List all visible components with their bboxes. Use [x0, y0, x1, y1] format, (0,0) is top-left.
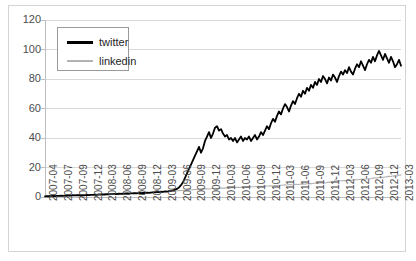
- legend-swatch-linkedin-icon: [67, 60, 93, 62]
- y-axis-tick-label: 20: [9, 162, 41, 173]
- y-axis-tick-label: 80: [9, 73, 41, 84]
- x-axis-tick-label: 2011-03: [286, 165, 296, 201]
- legend-label-twitter: twitter: [99, 37, 128, 48]
- x-axis-tick-label: 2013-03: [405, 164, 415, 201]
- x-axis-tick-label: 2010-06: [242, 164, 252, 201]
- x-axis-tick-label: 2008-12: [153, 164, 163, 201]
- x-axis-tick-label: 2007-09: [79, 164, 89, 201]
- x-axis-tick-label: 2010-03: [227, 164, 237, 201]
- x-axis-tick-label: 2008-03: [108, 164, 118, 201]
- x-axis-tick-label: 2012-06: [361, 164, 371, 201]
- x-axis-tick-label: 2012-09: [375, 164, 385, 201]
- x-axis-tick-label: 2011-06: [301, 165, 311, 201]
- x-axis-tick-label: 2012-03: [346, 164, 356, 201]
- y-axis-tick-label: 40: [9, 132, 41, 143]
- x-axis-tick-label: 2010-09: [257, 164, 267, 201]
- x-axis-tick-label: 2012-12: [390, 164, 400, 201]
- chart-legend: twitter linkedin: [57, 27, 129, 71]
- x-axis-tick-label: 2009-09: [197, 164, 207, 201]
- x-axis-tick-label: 2009-03: [168, 164, 178, 201]
- legend-swatch-twitter-icon: [67, 41, 93, 44]
- y-axis-tick-label: 0: [9, 191, 41, 202]
- y-axis-tick-label: 120: [9, 14, 41, 25]
- x-axis-tick-label: 2009-06: [183, 164, 193, 201]
- x-axis-tick-label: 2011-09: [316, 165, 326, 201]
- y-axis-tick-label: 60: [9, 103, 41, 114]
- x-axis-tick-label: 2007-04: [49, 164, 59, 201]
- chart-container: 120100806040200 2007-042007-072007-09200…: [8, 5, 406, 252]
- x-axis-tick-label: 2010-12: [272, 164, 282, 201]
- x-axis-tick-label: 2011-12: [331, 165, 341, 201]
- x-axis-tick-label: 2009-12: [212, 164, 222, 201]
- x-axis-tick-label: 2008-06: [123, 164, 133, 201]
- x-axis-tick-label: 2008-09: [138, 164, 148, 201]
- x-axis-tick-label: 2007-07: [64, 164, 74, 201]
- legend-label-linkedin: linkedin: [99, 56, 136, 67]
- legend-entry-linkedin: linkedin: [67, 54, 136, 68]
- y-axis-tick-label: 100: [9, 44, 41, 55]
- legend-entry-twitter: twitter: [67, 35, 128, 49]
- x-axis-tick-label: 2007-12: [94, 164, 104, 201]
